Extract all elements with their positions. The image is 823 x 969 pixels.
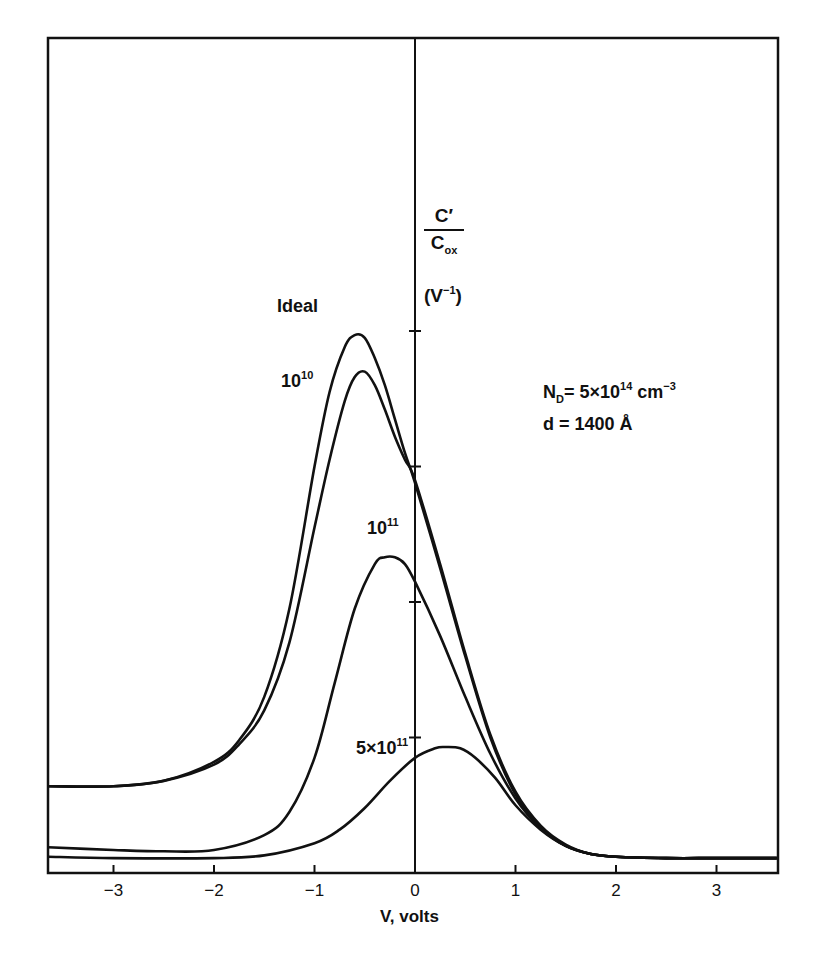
series-label-base: 5×10 (356, 738, 397, 758)
curve-1e10 (48, 371, 777, 858)
x-tick-label: −2 (204, 881, 223, 901)
x-tick-label: −3 (104, 881, 123, 901)
x-tick-label: −1 (305, 881, 324, 901)
x-tick-label: 2 (611, 881, 620, 901)
series-label-1e11: 1011 (367, 516, 399, 539)
series-label-base: Ideal (277, 296, 318, 316)
curve-ideal (48, 334, 777, 858)
nd-exp: 14 (620, 380, 632, 392)
series-label-exp: 11 (387, 516, 399, 528)
x-tick-label: 0 (410, 881, 419, 901)
y-unit-close: ) (456, 285, 462, 306)
y-axis-label: C′ Cox (424, 205, 464, 256)
cv-derivative-chart (0, 0, 823, 969)
series-label-exp: 10 (301, 369, 313, 381)
y-label-den-base: C (431, 232, 445, 253)
nd-eq: = 5×10 (564, 382, 620, 402)
y-unit-sup: −1 (443, 284, 456, 296)
nd-base: N (543, 382, 556, 402)
curves (48, 334, 777, 858)
y-label-denominator: Cox (424, 231, 464, 256)
series-label-base: 10 (281, 371, 301, 391)
nd-sub: D (556, 393, 564, 405)
x-axis-label: V, volts (380, 907, 439, 927)
x-tick-label: 3 (712, 881, 721, 901)
series-label-ideal: Ideal (277, 296, 318, 317)
y-axis-unit: (V−1) (424, 284, 462, 307)
y-label-numerator: C′ (424, 205, 464, 231)
thickness-annotation: d = 1400 Å (543, 414, 633, 435)
y-unit-base: (V (424, 285, 443, 306)
series-label-exp: 11 (397, 736, 409, 748)
plot-frame (48, 38, 778, 873)
doping-annotation: ND= 5×1014 cm−3 (543, 380, 676, 405)
nd-unit: cm (632, 382, 663, 402)
x-tick-label: 1 (511, 881, 520, 901)
series-label-5e11: 5×1011 (356, 736, 408, 759)
nd-unit-exp: −3 (663, 380, 676, 392)
series-label-base: 10 (367, 518, 387, 538)
series-label-1e10: 1010 (281, 369, 313, 392)
y-label-den-sub: ox (444, 244, 457, 256)
curve-5e11 (48, 747, 777, 858)
